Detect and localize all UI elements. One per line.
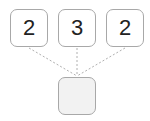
number-box-1-value: 2 [23, 15, 35, 41]
number-box-2-value: 3 [71, 15, 83, 41]
number-box-2: 3 [58, 9, 96, 47]
number-box-3-value: 2 [119, 15, 131, 41]
number-box-1: 2 [10, 9, 48, 47]
number-box-3: 2 [106, 9, 144, 47]
answer-box[interactable] [58, 77, 96, 115]
